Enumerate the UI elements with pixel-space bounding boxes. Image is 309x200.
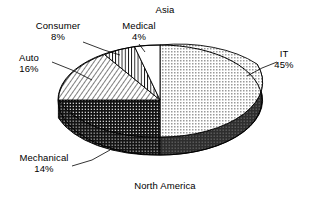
slice-label-mechanical-value: 14% [19,163,68,174]
slice-label-it-name: IT [274,48,293,59]
slice-label-mechanical-name: Mechanical [19,152,68,163]
slice-label-auto-value: 16% [19,63,39,74]
chart-title: Asia [156,4,175,15]
slice-label-medical: Medical 4% [122,20,155,42]
slice-label-consumer: Consumer 8% [36,20,81,42]
slice-label-consumer-value: 8% [36,31,81,42]
slice-label-auto-name: Auto [19,52,39,63]
slice-label-medical-value: 4% [122,31,155,42]
chart-footer-label: North America [134,180,196,191]
leader-line-consumer [83,42,120,55]
slice-label-mechanical: Mechanical 14% [19,152,68,174]
slice-label-medical-name: Medical [122,20,155,31]
slice-label-it: IT 45% [274,48,293,70]
pie-chart-figure: Asia North America IT 45% Medical 4% Con… [0,0,309,200]
slice-label-it-value: 45% [274,59,293,70]
leader-line-mechanical [72,150,110,166]
slice-label-auto: Auto 16% [19,52,39,74]
slice-label-consumer-name: Consumer [36,20,81,31]
